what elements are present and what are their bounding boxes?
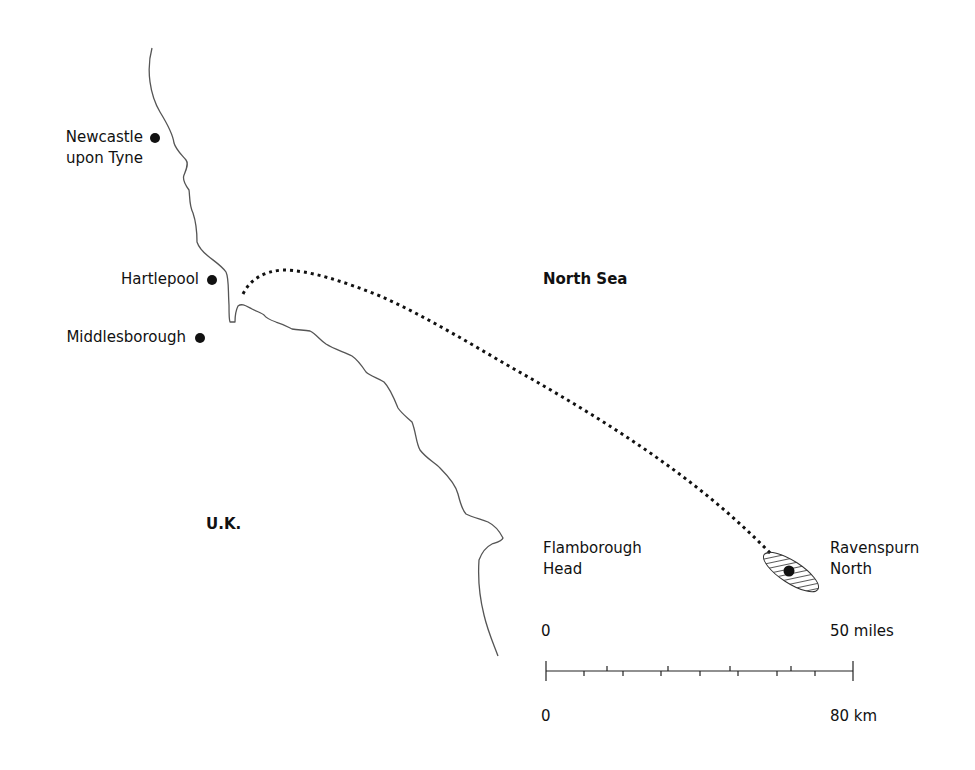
- label-hartlepool-text: Hartlepool: [121, 270, 199, 288]
- scale-bar: [546, 661, 853, 681]
- label-newcastle: Newcastle upon Tyne: [40, 127, 143, 169]
- label-ravenspurn-line1: Ravenspurn: [830, 538, 919, 559]
- scale-miles-start: 0: [541, 621, 551, 642]
- label-ravenspurn-line2: North: [830, 559, 919, 580]
- label-hartlepool: Hartlepool: [60, 269, 199, 290]
- label-middlesborough-text: Middlesborough: [66, 328, 186, 346]
- label-flamborough-head: Flamborough Head: [543, 538, 642, 580]
- label-middlesborough: Middlesborough: [20, 327, 186, 348]
- map-canvas: [0, 0, 975, 770]
- scale-km-start: 0: [541, 706, 551, 727]
- coastline: [149, 48, 503, 656]
- scale-km-end: 80 km: [830, 706, 877, 727]
- label-flamborough-line1: Flamborough: [543, 538, 642, 559]
- ravenspurn-gas-field: [758, 545, 824, 598]
- label-ravenspurn-north: Ravenspurn North: [830, 538, 919, 580]
- label-uk: U.K.: [206, 514, 241, 535]
- label-newcastle-line2: upon Tyne: [40, 148, 143, 169]
- dotted-route: [243, 270, 772, 555]
- label-north-sea: North Sea: [543, 269, 627, 290]
- ravenspurn-marker-icon: [784, 566, 795, 577]
- hartlepool-marker-icon: [207, 275, 217, 285]
- label-flamborough-line2: Head: [543, 559, 642, 580]
- middlesborough-marker-icon: [195, 333, 205, 343]
- newcastle-marker-icon: [150, 133, 160, 143]
- scale-miles-end: 50 miles: [830, 621, 894, 642]
- label-newcastle-line1: Newcastle: [40, 127, 143, 148]
